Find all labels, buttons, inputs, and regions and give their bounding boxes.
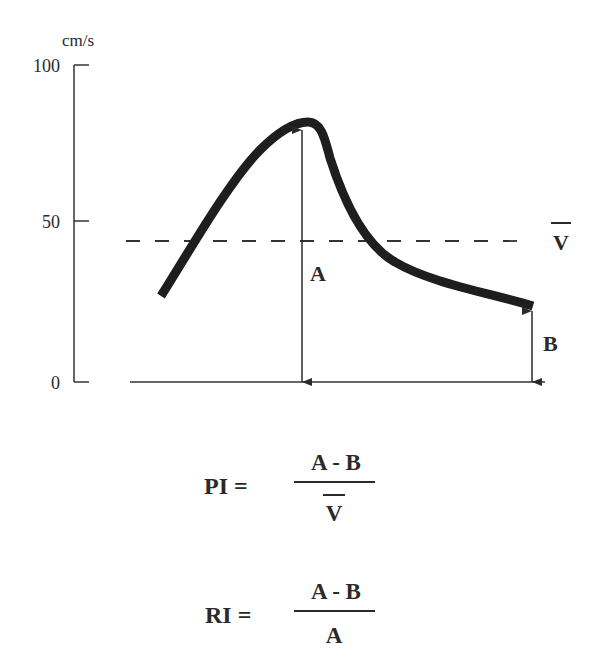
tick-label-100: 100	[33, 56, 60, 76]
ri-numerator: A - B	[311, 579, 361, 604]
pi-formula: PI = A - B V	[204, 450, 375, 526]
label-a: A	[310, 261, 326, 286]
svg-text:V: V	[553, 230, 569, 255]
pi-lhs: PI =	[204, 473, 248, 499]
mean-velocity-label: V	[551, 223, 571, 255]
ri-denominator: A	[326, 623, 343, 648]
ri-lhs: RI =	[205, 602, 251, 628]
pi-denominator: V	[326, 501, 343, 526]
tick-label-50: 50	[42, 212, 60, 232]
y-axis: cm/s 100 50 0	[33, 31, 94, 393]
label-b: B	[543, 331, 558, 356]
doppler-diagram: cm/s 100 50 0 V A B PI = A - B V RI = A …	[0, 0, 597, 666]
y-axis-unit: cm/s	[62, 31, 94, 50]
pi-numerator: A - B	[311, 450, 361, 475]
ri-formula: RI = A - B A	[205, 579, 375, 648]
velocity-waveform	[161, 122, 533, 306]
tick-label-0: 0	[51, 373, 60, 393]
